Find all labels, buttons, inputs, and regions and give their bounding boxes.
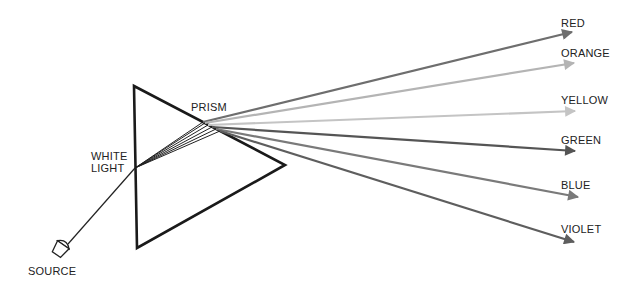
white-light-label-line1: WHITE bbox=[91, 150, 127, 162]
incident-beam bbox=[68, 168, 135, 244]
ray-red bbox=[203, 32, 572, 122]
ray-label-yellow: YELLOW bbox=[561, 94, 608, 106]
emergent-rays bbox=[203, 32, 578, 242]
prism-label: PRISM bbox=[191, 101, 227, 113]
internal-ray-fan bbox=[135, 122, 220, 168]
light-source-icon bbox=[51, 238, 71, 259]
ray-label-red: RED bbox=[561, 17, 585, 29]
ray-label-orange: ORANGE bbox=[561, 47, 610, 59]
prism-dispersion-diagram: PRISM WHITE LIGHT SOURCE RED ORANGE YELL… bbox=[0, 0, 634, 297]
ray-label-green: GREEN bbox=[561, 134, 601, 146]
source-label: SOURCE bbox=[28, 265, 76, 277]
ray-label-violet: VIOLET bbox=[561, 223, 601, 235]
white-light-label-line2: LIGHT bbox=[91, 162, 124, 174]
ray-label-blue: BLUE bbox=[561, 179, 591, 191]
